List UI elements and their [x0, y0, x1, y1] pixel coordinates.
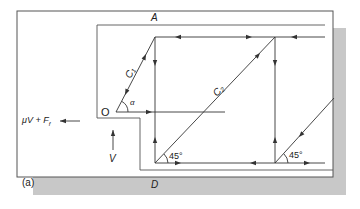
label-origin: O: [101, 107, 110, 118]
label-force-left-sub: f: [49, 121, 51, 127]
label-alpha: α: [130, 99, 135, 107]
diagram-svg: [0, 0, 360, 209]
label-point-a: A: [151, 13, 158, 23]
label-force-left: μV + Ff: [22, 116, 50, 127]
label-force-v: V: [109, 154, 116, 164]
diagram-figure: A D O α C₁ C₂ 45° 45° μV + Ff V (a): [0, 0, 360, 209]
label-point-d: D: [151, 180, 158, 190]
label-angle-right: 45°: [289, 151, 303, 160]
panel-label: (a): [22, 178, 34, 188]
label-angle-left: 45°: [169, 152, 183, 161]
